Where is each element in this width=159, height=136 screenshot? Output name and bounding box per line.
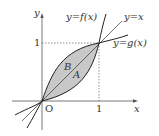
y-axis-arrow-icon <box>40 13 43 18</box>
y-axis-label: y <box>33 7 40 18</box>
y-tick-label: 1 <box>34 37 40 48</box>
line-label: y=x <box>123 11 144 22</box>
f-curve-label: y=f(x) <box>65 11 97 22</box>
origin-label: O <box>45 103 53 114</box>
x-tick-label: 1 <box>96 103 102 114</box>
line-y-equals-x <box>22 21 122 121</box>
graph: y x O 1 1 y=f(x) y=x y=g(x) B A <box>0 0 159 136</box>
region-a-label: A <box>72 69 80 80</box>
g-curve-label: y=g(x) <box>112 37 147 48</box>
region-b-label: B <box>63 61 71 72</box>
x-axis-label: x <box>134 103 140 114</box>
